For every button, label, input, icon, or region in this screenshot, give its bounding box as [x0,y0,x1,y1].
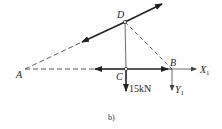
reaction-label-x1: X1 [199,64,210,77]
force-arrow-da [82,22,125,42]
point-label-c: C [116,71,123,82]
dashed-line-a-d [25,42,82,69]
point-label-d: D [116,9,125,20]
load-label-15kn: 15kN [129,83,151,94]
joint-d [123,20,126,23]
dashed-line-d-b [125,22,172,69]
reaction-label-y1: Y1 [175,84,185,97]
truss-free-body-diagram: A B C D 15kN X1 Y1 b) [0,0,222,129]
force-arrow-d-up [125,4,162,22]
joint-c [124,67,127,70]
figure-caption: b) [108,113,115,122]
point-label-b: B [170,57,176,68]
member-dc [125,22,126,69]
point-label-a: A [15,69,23,80]
